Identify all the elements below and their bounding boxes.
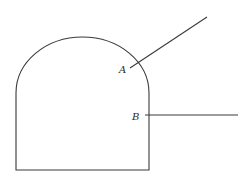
arched-outline	[16, 37, 149, 170]
diagram-canvas: A B	[0, 0, 251, 182]
label-a: A	[118, 64, 126, 75]
line-a	[130, 17, 207, 68]
label-b: B	[131, 111, 139, 122]
